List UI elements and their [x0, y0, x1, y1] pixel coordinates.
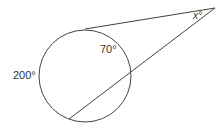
- arc-70-label: 70°: [100, 44, 117, 55]
- arc-200-label: 200°: [13, 70, 36, 81]
- geometry-figure: [0, 0, 221, 132]
- angle-x-label: x°: [193, 11, 202, 21]
- circle: [39, 30, 131, 122]
- secant-line: [69, 8, 215, 119]
